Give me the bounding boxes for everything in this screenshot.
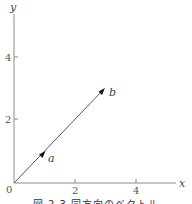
vector-b-label: b [109,86,116,99]
y-tick-label-4: 4 [5,52,11,63]
x-axis-label: x [179,177,186,190]
figure-caption: 図 2.3 同方向のベクトル [0,196,192,204]
vector-diagram: 4 2 2 4 0 y x b a [0,0,192,204]
vector-a-label: a [48,152,55,165]
x-tick-label-2: 2 [72,185,78,196]
vector-b-line [14,90,103,183]
y-axis-label: y [9,1,17,14]
x-tick-label-4: 4 [133,185,139,196]
vector-a-arrowhead-icon [39,151,46,158]
origin-label: 0 [6,184,12,195]
y-tick-label-2: 2 [5,114,11,125]
